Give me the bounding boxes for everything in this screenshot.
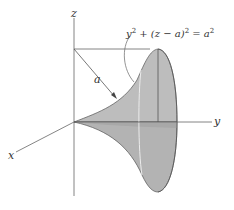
- surface-lower: [74, 122, 177, 192]
- equation-leader: [124, 36, 134, 82]
- horn-surface-diagram: z y x a y2 + (z − a)2 = a2: [0, 0, 234, 210]
- equation-label: y2 + (z − a)2 = a2: [125, 27, 214, 39]
- radius-label: a: [94, 73, 101, 86]
- y-axis-label: y: [213, 115, 221, 128]
- x-axis-label: x: [8, 149, 15, 162]
- surface-upper: [74, 49, 177, 122]
- z-axis-label: z: [70, 7, 77, 20]
- x-axis: [16, 122, 74, 152]
